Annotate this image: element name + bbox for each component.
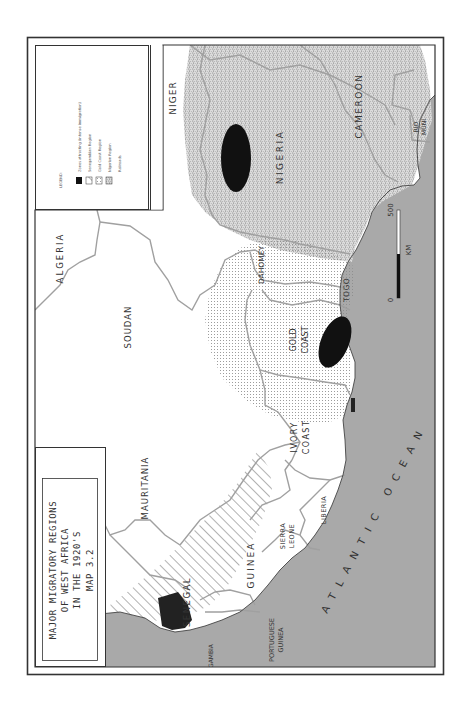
scale-end-label: 500	[387, 203, 395, 216]
attraction-zone-ivory-coast	[351, 398, 355, 412]
label-niger: NIGER	[168, 81, 178, 114]
label-sierra-leone-2: LEONE	[288, 524, 296, 548]
label-liberia: LIBERIA	[320, 496, 328, 525]
legend-item-nigerian: Nigerian Region	[108, 143, 112, 172]
legend-swatch-gold-coast	[96, 177, 102, 184]
label-ivory-coast-2: COAST	[302, 420, 311, 455]
legend-item-railroads: Railroads	[118, 155, 122, 172]
label-portuguese-guinea-1: PORTUGUESE	[268, 618, 276, 662]
scale-bar	[397, 210, 400, 298]
legend-swatch-nigerian	[106, 177, 112, 184]
label-rio-muni-2: MUNI	[420, 119, 427, 135]
legend-heading: LEGEND:	[59, 172, 63, 188]
attraction-zone-nigeria	[221, 124, 251, 192]
map-title-line-1: MAJOR MIGRATORY REGIONS	[48, 501, 58, 639]
label-algeria: ALGERIA	[55, 233, 65, 284]
map-title-line-2: OF WEST AFRICA	[60, 528, 70, 612]
scale-unit-label: KM	[405, 245, 413, 256]
scale-start-label: 0	[387, 298, 395, 302]
label-sierra-leone-1: SIERRA	[279, 523, 287, 549]
west-africa-migration-map: 0 500 KM NIGER NIGERIA CAMEROON ALGERIA …	[0, 0, 468, 713]
legend-item-attraction: Zones attracting (intense immigration)	[78, 101, 82, 172]
label-rio-muni-1: RIO	[412, 121, 419, 132]
label-gold-coast-1: GOLD	[289, 328, 298, 351]
label-portuguese-guinea-2: GUINEA	[277, 627, 285, 653]
title-box: MAJOR MIGRATORY REGIONS OF WEST AFRICA I…	[36, 448, 106, 667]
label-cameroon: CAMEROON	[354, 73, 364, 138]
label-dahomey: DAHOMEY	[257, 246, 266, 285]
label-ivory-coast-1: IVORY	[290, 421, 299, 452]
label-guinea: GUINEA	[246, 542, 256, 589]
legend-swatch-senegambian	[86, 177, 92, 184]
map-title-line-3: IN THE 1920'S	[72, 531, 82, 609]
label-togo: TOGO	[342, 278, 351, 303]
legend-item-gold-coast: Gold Coast Region	[98, 139, 102, 172]
label-mauritania: MAURITANIA	[140, 457, 150, 520]
legend-item-senegambian: Senegambian Region	[88, 134, 92, 172]
legend-box: LEGEND: Zones attracting (intense immigr…	[36, 45, 163, 210]
label-gambia: GAMBIA	[207, 643, 214, 668]
label-gold-coast-2: COAST	[301, 326, 310, 353]
label-soudan: SOUDAN	[123, 306, 133, 349]
legend-swatch-attraction	[76, 177, 82, 184]
map-number: MAP 3.2	[85, 549, 95, 591]
label-senegal: SENEGAL	[182, 577, 192, 627]
label-nigeria: NIGERIA	[275, 130, 285, 185]
